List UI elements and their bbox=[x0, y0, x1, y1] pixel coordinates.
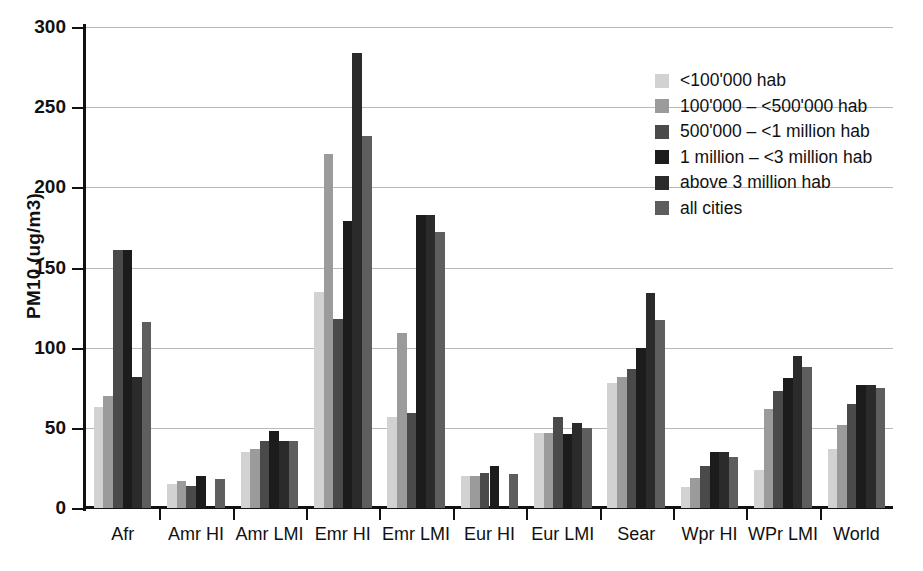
bar bbox=[215, 479, 225, 508]
legend-label: 1 million – <3 million hab bbox=[680, 149, 872, 167]
bar bbox=[397, 333, 407, 508]
bar bbox=[177, 481, 187, 508]
bar bbox=[416, 215, 426, 508]
bar bbox=[773, 391, 783, 508]
bar bbox=[113, 250, 123, 508]
x-tick-mark bbox=[306, 508, 308, 520]
bar bbox=[754, 470, 764, 508]
bar bbox=[387, 417, 397, 508]
y-tick-label: 200 bbox=[0, 176, 66, 198]
bar bbox=[352, 53, 362, 508]
y-tick-label: 50 bbox=[0, 417, 66, 439]
bar bbox=[690, 478, 700, 508]
bar bbox=[544, 433, 554, 508]
x-tick-mark bbox=[526, 508, 528, 520]
x-tick-label: Sear bbox=[617, 524, 655, 545]
bar bbox=[490, 466, 500, 508]
bar bbox=[142, 322, 152, 508]
x-tick-label: Emr HI bbox=[315, 524, 371, 545]
legend-item[interactable]: above 3 million hab bbox=[655, 170, 917, 196]
x-tick-mark bbox=[820, 508, 822, 520]
bar bbox=[837, 425, 847, 508]
bar bbox=[324, 154, 334, 508]
legend-swatch-icon bbox=[655, 201, 669, 215]
x-tick-mark bbox=[159, 508, 161, 520]
bar bbox=[470, 476, 480, 508]
legend-swatch-icon bbox=[655, 125, 669, 139]
bar bbox=[783, 378, 793, 508]
bar bbox=[607, 383, 617, 508]
bar bbox=[186, 486, 196, 508]
bar bbox=[828, 449, 838, 508]
bar bbox=[426, 215, 436, 508]
x-tick-mark bbox=[600, 508, 602, 520]
bar bbox=[250, 449, 260, 508]
legend-swatch-icon bbox=[655, 99, 669, 113]
bar bbox=[636, 348, 646, 508]
bar bbox=[655, 320, 665, 508]
bar bbox=[480, 473, 490, 508]
bar bbox=[289, 441, 299, 508]
bar bbox=[764, 409, 774, 508]
legend-label: 500'000 – <1 million hab bbox=[680, 123, 870, 141]
legend-swatch-icon bbox=[655, 74, 669, 88]
bar bbox=[793, 356, 803, 508]
bar bbox=[700, 466, 710, 508]
x-tick-mark bbox=[673, 508, 675, 520]
legend-label: all cities bbox=[680, 200, 742, 218]
bar bbox=[196, 476, 206, 508]
legend-label: <100'000 hab bbox=[680, 72, 786, 90]
y-tick-label: 150 bbox=[0, 257, 66, 279]
bar bbox=[123, 250, 133, 508]
y-tick-label: 0 bbox=[0, 497, 66, 519]
bar bbox=[94, 407, 104, 508]
legend-swatch-icon bbox=[655, 150, 669, 164]
bar bbox=[167, 484, 177, 508]
bar bbox=[279, 441, 289, 508]
y-tick-label: 250 bbox=[0, 96, 66, 118]
bar bbox=[435, 232, 445, 508]
bar bbox=[407, 413, 417, 508]
chart-legend: <100'000 hab100'000 – <500'000 hab500'00… bbox=[655, 68, 917, 221]
bar bbox=[856, 385, 866, 508]
bar bbox=[260, 441, 270, 508]
bar bbox=[103, 396, 113, 508]
x-tick-label: WPr LMI bbox=[748, 524, 818, 545]
legend-item[interactable]: 500'000 – <1 million hab bbox=[655, 119, 917, 145]
bar bbox=[719, 452, 729, 508]
bar bbox=[333, 319, 343, 508]
bar bbox=[617, 377, 627, 508]
x-tick-mark bbox=[746, 508, 748, 520]
bar bbox=[802, 367, 812, 508]
bar bbox=[866, 385, 876, 508]
legend-item[interactable]: all cities bbox=[655, 196, 917, 222]
legend-item[interactable]: <100'000 hab bbox=[655, 68, 917, 94]
bar bbox=[582, 428, 592, 508]
x-tick-label: Afr bbox=[111, 524, 134, 545]
x-tick-label: Eur HI bbox=[464, 524, 515, 545]
bar bbox=[534, 433, 544, 508]
x-tick-mark bbox=[379, 508, 381, 520]
x-tick-label: World bbox=[833, 524, 880, 545]
x-tick-label: Amr HI bbox=[168, 524, 224, 545]
y-tick-label: 300 bbox=[0, 16, 66, 38]
x-tick-label: Wpr HI bbox=[682, 524, 738, 545]
legend-item[interactable]: 1 million – <3 million hab bbox=[655, 145, 917, 171]
x-tick-label: Eur LMI bbox=[531, 524, 594, 545]
bar bbox=[710, 452, 720, 508]
x-tick-label: Amr LMI bbox=[235, 524, 303, 545]
bar bbox=[132, 377, 142, 508]
bar bbox=[681, 487, 691, 508]
bar bbox=[314, 292, 324, 508]
bar bbox=[563, 434, 573, 508]
pm10-bar-chart: PM10 (ug/m3) 050100150200250300 AfrAmr H… bbox=[0, 0, 923, 571]
bar bbox=[343, 221, 353, 508]
bar bbox=[572, 423, 582, 508]
legend-swatch-icon bbox=[655, 176, 669, 190]
legend-label: 100'000 – <500'000 hab bbox=[680, 98, 867, 116]
bar bbox=[461, 476, 471, 508]
y-tick-label: 100 bbox=[0, 337, 66, 359]
bar bbox=[646, 293, 656, 508]
legend-item[interactable]: 100'000 – <500'000 hab bbox=[655, 94, 917, 120]
bar bbox=[509, 474, 519, 508]
